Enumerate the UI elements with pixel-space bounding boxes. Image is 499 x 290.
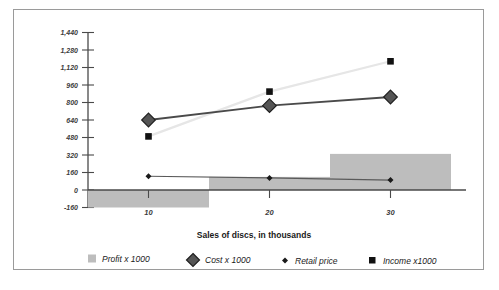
y-tick-label-320: 320 (66, 152, 78, 159)
y-tick-label-480: 480 (65, 134, 78, 141)
marker-cost-20 (263, 99, 277, 113)
y-tick-label-1440: 1,440 (60, 29, 78, 37)
marker-income-10 (145, 133, 152, 140)
y-tick-label-neg160: -160 (64, 204, 78, 211)
series-cost-markers (142, 90, 398, 127)
legend-swatch-diamond-icon (187, 254, 200, 267)
legend-label-profit: Profit x 1000 (102, 254, 150, 264)
chart-figure: 1,440 1,280 1,120 960 800 640 480 320 16… (13, 9, 484, 270)
y-tick-label-1280: 1,280 (60, 47, 78, 55)
legend-item-cost[interactable]: Cost x 1000 (187, 254, 251, 267)
y-axis: 1,440 1,280 1,120 960 800 640 480 320 16… (60, 29, 94, 211)
legend-swatch-black-square-icon (369, 257, 376, 264)
y-tick-label-800: 800 (66, 99, 78, 106)
marker-cost-10 (142, 113, 156, 127)
x-tick-label-30: 30 (386, 208, 395, 217)
y-tick-label-160: 160 (66, 169, 78, 176)
marker-income-30 (387, 58, 394, 65)
legend-label-cost: Cost x 1000 (205, 255, 251, 265)
chart-svg: 1,440 1,280 1,120 960 800 640 480 320 16… (14, 10, 485, 271)
chart-plot-area: 1,440 1,280 1,120 960 800 640 480 320 16… (14, 10, 485, 271)
legend-swatch-small-diamond-icon (282, 258, 288, 264)
legend-item-income[interactable]: Income x1000 (369, 256, 437, 266)
legend-item-profit[interactable]: Profit x 1000 (88, 254, 150, 264)
chart-legend: Profit x 1000 Cost x 1000 Retail price I… (88, 254, 437, 267)
x-tick-label-10: 10 (144, 208, 153, 217)
x-tick-label-20: 20 (264, 208, 274, 217)
bar-profit-30 (330, 154, 451, 190)
legend-item-retail[interactable]: Retail price (282, 256, 338, 266)
legend-label-income: Income x1000 (383, 256, 437, 266)
legend-label-retail: Retail price (295, 256, 338, 266)
y-tick-label-640: 640 (66, 117, 78, 124)
marker-income-20 (266, 88, 273, 95)
y-tick-label-960: 960 (66, 82, 78, 89)
legend-swatch-square-icon (88, 255, 96, 263)
marker-retail-10 (146, 173, 152, 179)
marker-cost-30 (384, 90, 398, 104)
y-tick-label-0: 0 (74, 187, 78, 194)
x-axis-title: Sales of discs, in thousands (197, 230, 312, 240)
y-tick-label-1120: 1,120 (60, 64, 78, 72)
